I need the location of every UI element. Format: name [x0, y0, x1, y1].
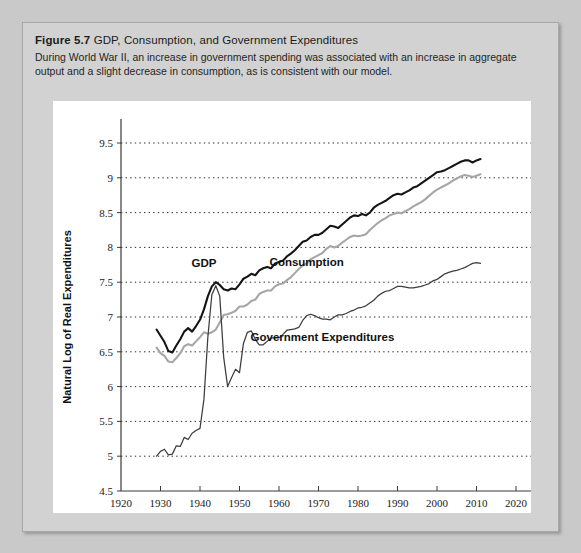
chart-panel: 4.555.566.577.588.599.5 1920193019401950… [53, 101, 531, 513]
y-axis-tick-label: 4.5 [99, 485, 113, 497]
y-axis-tick-label: 8 [108, 241, 114, 253]
figure-container: Figure 5.7 GDP, Consumption, and Governm… [22, 22, 559, 532]
x-axis-tick-label: 1980 [347, 497, 370, 509]
series-annotation: GDP [191, 257, 216, 269]
y-axis-tick-label: 5.5 [99, 415, 113, 427]
x-axis-tick-label: 1990 [387, 497, 410, 509]
line-chart: 4.555.566.577.588.599.5 1920193019401950… [53, 101, 531, 513]
figure-caption: Figure 5.7 GDP, Consumption, and Governm… [35, 33, 540, 78]
series-annotation: Consumption [270, 256, 344, 268]
y-axis-tick-label: 7.5 [99, 276, 113, 288]
gridlines-group [121, 143, 531, 456]
y-axis-tick-label: 7 [108, 311, 114, 323]
y-axis-tick-label: 5 [108, 450, 114, 462]
x-axis-ticks-group: 1920193019401950196019701980199020002010… [110, 486, 528, 509]
series-line-government-expenditures [157, 263, 481, 456]
x-axis-tick-label: 2010 [466, 497, 489, 509]
y-axis-title: Natural Log of Real Expenditures [61, 230, 73, 404]
x-axis-tick-label: 1950 [229, 497, 252, 509]
x-axis-tick-label: 1940 [189, 497, 212, 509]
x-axis-tick-label: 1960 [268, 497, 291, 509]
figure-title-line: Figure 5.7 GDP, Consumption, and Governm… [35, 33, 540, 48]
x-axis-tick-label: 1920 [110, 497, 133, 509]
x-axis-tick-label: 1930 [150, 497, 173, 509]
series-annotation: Government Expenditures [251, 331, 395, 343]
y-axis-tick-label: 8.5 [99, 207, 113, 219]
y-axis-ticks-group: 4.555.566.577.588.599.5 [99, 137, 121, 497]
figure-description: During World War II, an increase in gove… [35, 51, 540, 78]
x-axis-tick-label: 2000 [426, 497, 449, 509]
x-axis-tick-label: 2020 [505, 497, 528, 509]
y-axis-tick-label: 6.5 [99, 346, 113, 358]
y-axis-tick-label: 9 [108, 172, 114, 184]
y-axis-tick-label: 6 [108, 381, 114, 393]
figure-title: GDP, Consumption, and Government Expendi… [94, 34, 358, 46]
y-axis-tick-label: 9.5 [99, 137, 113, 149]
figure-number: Figure 5.7 [35, 34, 90, 46]
x-axis-tick-label: 1970 [308, 497, 331, 509]
data-series-group [157, 159, 481, 456]
